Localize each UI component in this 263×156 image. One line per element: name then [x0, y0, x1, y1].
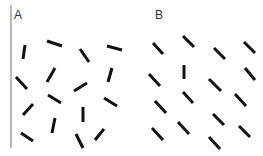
- line-segment: [155, 101, 166, 113]
- line-segment: [21, 133, 33, 141]
- line-segment: [152, 128, 163, 140]
- line-segment: [209, 137, 220, 149]
- line-segment: [52, 118, 55, 133]
- line-segment: [16, 77, 27, 89]
- line-segment: [47, 41, 62, 46]
- line-segment: [183, 36, 194, 47]
- panel-b-label: B: [155, 8, 163, 22]
- orientation-diagram: A B: [0, 0, 263, 156]
- line-segment: [107, 46, 122, 50]
- line-segment: [149, 74, 160, 86]
- line-segment: [95, 129, 104, 140]
- line-segment: [153, 43, 163, 54]
- line-segment: [76, 134, 83, 148]
- line-segment: [23, 104, 33, 115]
- panel-a-random-orientations: A: [14, 8, 122, 148]
- line-segment: [47, 68, 55, 82]
- line-segment: [74, 83, 87, 91]
- line-segment: [48, 95, 61, 103]
- line-segment: [235, 94, 246, 106]
- line-segment: [213, 114, 224, 125]
- line-segment: [104, 98, 117, 106]
- line-segment: [183, 92, 193, 103]
- line-segment: [178, 122, 189, 134]
- line-segment: [108, 68, 112, 82]
- line-segment: [244, 42, 255, 53]
- line-segment: [80, 49, 89, 62]
- line-segment: [209, 79, 221, 91]
- line-segment: [23, 45, 25, 59]
- panel-a-label: A: [14, 8, 22, 22]
- line-segment: [239, 126, 250, 137]
- line-segment: [245, 68, 255, 80]
- line-segment: [214, 48, 225, 59]
- panel-b-uniform-orientations: B: [149, 8, 255, 149]
